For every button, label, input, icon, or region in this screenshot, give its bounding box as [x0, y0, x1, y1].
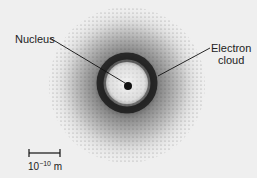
- nucleus: [124, 82, 132, 90]
- electron-cloud-label-line2: cloud: [211, 54, 251, 66]
- scale-exponent: −10: [39, 160, 51, 167]
- scale-unit: m: [54, 161, 62, 172]
- electron-cloud-label: Electron cloud: [211, 42, 251, 66]
- electron-cloud-label-line1: Electron: [211, 42, 251, 54]
- atom-diagram: [0, 0, 257, 178]
- scale-bar-label: 10−10 m: [28, 158, 62, 173]
- scale-bar: [29, 149, 60, 157]
- nucleus-label: Nucleus: [15, 33, 55, 45]
- scale-base: 10: [28, 161, 39, 172]
